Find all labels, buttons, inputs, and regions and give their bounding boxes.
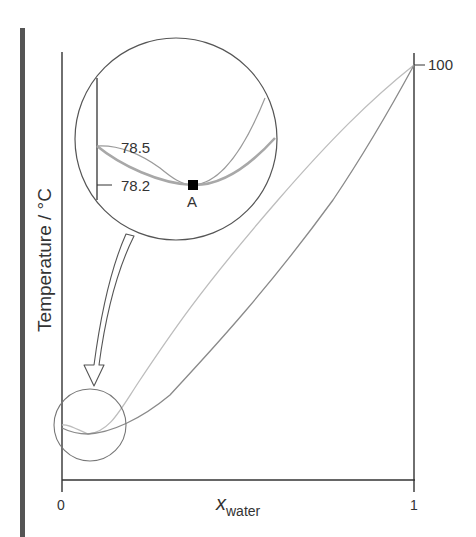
- inset-label-78-2: 78.2: [121, 177, 150, 194]
- magnify-arrow: [84, 234, 134, 386]
- y-axis-label: Temperature / °C: [34, 188, 55, 332]
- inset: 78.5 78.2 A: [75, 38, 277, 240]
- inset-circle: [75, 38, 277, 240]
- x-axis-label: xwater: [215, 492, 261, 519]
- x-tick-0: 0: [57, 497, 65, 513]
- x-axis-label-sub: water: [225, 503, 261, 519]
- x-tick-1: 1: [410, 497, 418, 513]
- azeotrope-point: [188, 180, 198, 190]
- phase-diagram: 78.5 78.2 A Temperature / °C 0 1 100 xwa…: [0, 0, 476, 537]
- tick-label-100: 100: [428, 56, 453, 73]
- point-label-a: A: [187, 193, 197, 210]
- side-bar: [20, 28, 25, 537]
- inset-label-78-5: 78.5: [121, 139, 150, 156]
